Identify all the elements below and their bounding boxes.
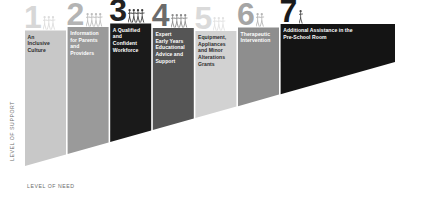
caption-line: and: [70, 43, 107, 50]
step-caption-3[interactable]: A QualifiedandConfidentWorkforce: [113, 27, 150, 53]
caption-line: and: [113, 33, 150, 40]
step-number-7: 7: [280, 0, 298, 27]
people-figures-icon: [86, 12, 105, 31]
caption-line: Early Years: [155, 38, 192, 45]
people-figures-icon: [171, 13, 190, 32]
caption-line: Equipment,: [198, 34, 235, 41]
step-caption-5[interactable]: Equipment,Appliancesand MinorAlterations…: [198, 34, 235, 67]
caption-line: Pre-School Room: [283, 34, 391, 41]
caption-line: Culture: [28, 47, 65, 54]
caption-line: Confident: [113, 40, 150, 47]
caption-line: Providers: [70, 50, 107, 57]
caption-line: Support: [155, 58, 192, 65]
step-number-4: 4: [152, 0, 170, 31]
caption-line: A Qualified: [113, 27, 150, 34]
caption-line: Expert: [155, 31, 192, 38]
caption-line: Intervention: [241, 37, 278, 44]
people-figures-icon: [299, 9, 305, 28]
y-axis-label: LEVEL OF SUPPORT: [9, 101, 15, 161]
step-caption-7[interactable]: Additional Assistance in thePre-School R…: [283, 27, 391, 40]
caption-line: and Minor: [198, 47, 235, 54]
step-number-5: 5: [194, 2, 212, 34]
people-figures-icon: [43, 15, 58, 34]
people-figures-icon: [213, 16, 228, 35]
step-number-2: 2: [67, 0, 85, 30]
caption-line: Information: [70, 30, 107, 37]
caption-line: Appliances: [198, 41, 235, 48]
x-axis-label: LEVEL OF NEED: [27, 183, 75, 189]
people-figures-icon: [256, 12, 266, 31]
caption-line: Educational: [155, 44, 192, 51]
caption-line: for Parents: [70, 37, 107, 44]
people-figures-icon: [128, 8, 147, 27]
step-caption-2[interactable]: Informationfor ParentsandProviders: [70, 30, 107, 56]
caption-line: Inclusive: [28, 40, 65, 47]
step-number-3: 3: [109, 0, 127, 26]
caption-line: An: [28, 34, 65, 41]
step-caption-6[interactable]: TherapeuticIntervention: [241, 31, 278, 44]
step-number-6: 6: [237, 0, 255, 30]
support-continuum-diagram: 1234567 AnInclusiveCultureInformationfor…: [0, 0, 442, 200]
caption-line: Additional Assistance in the: [283, 27, 391, 34]
step-number-1: 1: [24, 1, 42, 33]
caption-line: Workforce: [113, 47, 150, 54]
caption-line: Therapeutic: [241, 31, 278, 38]
step-caption-4[interactable]: ExpertEarly YearsEducationalAdvice andSu…: [155, 31, 192, 64]
caption-line: Grants: [198, 61, 235, 68]
caption-line: Alterations: [198, 54, 235, 61]
step-caption-1[interactable]: AnInclusiveCulture: [28, 34, 65, 54]
caption-line: Advice and: [155, 51, 192, 58]
